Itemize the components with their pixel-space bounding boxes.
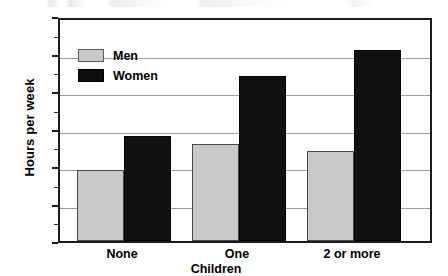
y-axis-title: Hours per week [22, 53, 37, 203]
x-axis-tick-label: One [177, 247, 297, 261]
x-axis-title-text: Children [191, 262, 242, 276]
legend-item-men: Men [78, 47, 158, 64]
x-axis-title: Children [0, 262, 448, 276]
bar-men-one [192, 144, 239, 242]
bar-women-2-or-more [354, 50, 401, 241]
legend-swatch-men [78, 49, 104, 62]
legend-item-women: Women [78, 67, 158, 84]
bar-men-2-or-more [307, 151, 354, 241]
cropped-header-remnant [46, 0, 376, 7]
x-axis-tick-label: None [62, 247, 182, 261]
bar-women-none [124, 136, 171, 241]
legend-swatch-women [78, 69, 104, 82]
chart-legend: MenWomen [78, 47, 158, 87]
legend-label-women: Women [113, 69, 158, 83]
bar-women-one [239, 76, 286, 241]
x-axis-tick-label: 2 or more [292, 247, 412, 261]
bar-men-none [77, 170, 124, 241]
bar-chart-figure: Hours per week 6050403020100 MenWomen No… [0, 0, 448, 276]
legend-label-men: Men [113, 49, 138, 63]
